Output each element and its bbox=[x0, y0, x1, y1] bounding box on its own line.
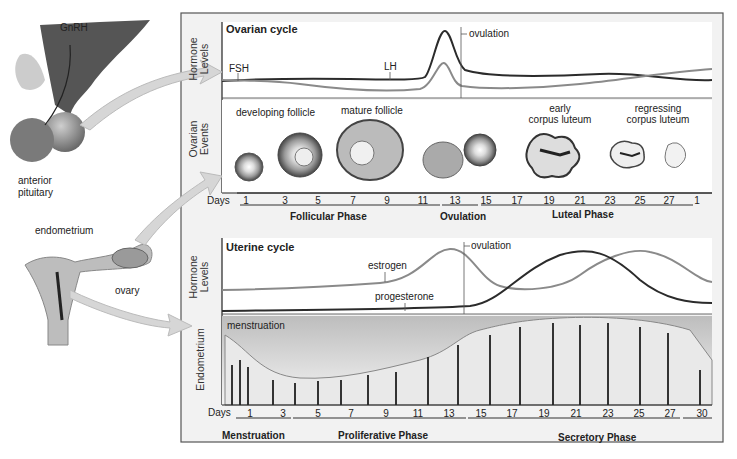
ovarian-events-axis-label: OvarianEvents bbox=[188, 114, 210, 164]
ovulation-label-bottom: ovulation bbox=[471, 240, 511, 251]
ovarian-hormone-axis-label: HormoneLevels bbox=[188, 34, 210, 84]
fsh-label: FSH bbox=[229, 63, 249, 74]
day-tick: 11 bbox=[415, 195, 431, 206]
day-tick: 25 bbox=[631, 408, 647, 419]
anterior-pituitary-label-1: anterior bbox=[18, 175, 52, 186]
endometrium-strip bbox=[222, 316, 712, 418]
follicular-phase-label: Follicular Phase bbox=[290, 211, 367, 222]
gnrh-label: GnRH bbox=[60, 22, 88, 33]
proliferative-phase-label: Proliferative Phase bbox=[338, 430, 428, 441]
ovary-label: ovary bbox=[115, 285, 139, 296]
early-corpus-luteum-label: earlycorpus luteum bbox=[525, 103, 595, 125]
day-tick: 17 bbox=[504, 408, 520, 419]
day-tick: 27 bbox=[661, 195, 677, 206]
estrogen-label: estrogen bbox=[368, 260, 407, 271]
day-tick: 3 bbox=[277, 195, 293, 206]
ovarian-days-label: Days bbox=[207, 195, 230, 206]
day-tick: 7 bbox=[343, 408, 359, 419]
day-tick: 15 bbox=[473, 408, 489, 419]
day-tick: 1 bbox=[689, 195, 705, 206]
secretory-phase-label: Secretory Phase bbox=[558, 432, 636, 443]
day-tick: 7 bbox=[345, 195, 361, 206]
menstruation-phase-label: Menstruation bbox=[222, 430, 285, 441]
endometrium-anatomy-label: endometrium bbox=[35, 225, 93, 236]
day-tick: 9 bbox=[379, 195, 395, 206]
uterine-hormone-axis-label: HormoneLevels bbox=[188, 252, 210, 302]
day-tick: 13 bbox=[441, 408, 457, 419]
day-tick: 21 bbox=[568, 408, 584, 419]
diagram-canvas bbox=[0, 0, 737, 459]
day-tick: 11 bbox=[410, 408, 426, 419]
lh-label: LH bbox=[384, 61, 397, 72]
uterine-cycle-title: Uterine cycle bbox=[226, 242, 294, 253]
day-tick: 13 bbox=[447, 195, 463, 206]
day-tick: 15 bbox=[478, 195, 494, 206]
progesterone-label: progesterone bbox=[375, 291, 434, 302]
day-tick: 5 bbox=[310, 408, 326, 419]
arrow-to-endometrium bbox=[70, 290, 192, 336]
day-tick: 1 bbox=[238, 195, 254, 206]
day-tick: 19 bbox=[536, 408, 552, 419]
anterior-pituitary-label-2: pituitary bbox=[18, 187, 53, 198]
uterine-days-label: Days bbox=[208, 407, 231, 418]
day-tick: 19 bbox=[541, 195, 557, 206]
day-tick: 23 bbox=[600, 408, 616, 419]
day-tick: 17 bbox=[509, 195, 525, 206]
day-tick: 30 bbox=[694, 408, 710, 419]
menstruation-strip-label: menstruation bbox=[227, 320, 285, 331]
mature-follicle-label: mature follicle bbox=[341, 105, 403, 116]
developing-follicle-label: developing follicle bbox=[236, 107, 315, 118]
regressing-corpus-luteum-label: regressingcorpus luteum bbox=[618, 103, 698, 125]
day-tick: 1 bbox=[242, 408, 258, 419]
luteal-phase-label: Luteal Phase bbox=[552, 209, 614, 220]
day-tick: 27 bbox=[662, 408, 678, 419]
day-tick: 9 bbox=[378, 408, 394, 419]
day-tick: 21 bbox=[572, 195, 588, 206]
ovulation-phase-label: Ovulation bbox=[440, 211, 486, 222]
endometrium-axis-label: Endometrium bbox=[195, 320, 206, 400]
day-tick: 25 bbox=[632, 195, 648, 206]
day-tick: 23 bbox=[602, 195, 618, 206]
day-tick: 3 bbox=[275, 408, 291, 419]
ovarian-cycle-title: Ovarian cycle bbox=[226, 24, 298, 35]
day-tick: 5 bbox=[310, 195, 326, 206]
ovulation-label-top: ovulation bbox=[469, 28, 509, 39]
